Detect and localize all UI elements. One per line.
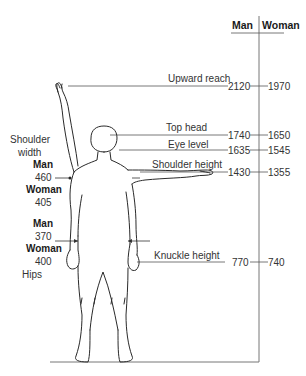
value-woman-shoulder-height: 1355 bbox=[268, 167, 290, 178]
value-man-upward-reach: 2120 bbox=[228, 81, 250, 92]
hips-man-label: Man bbox=[33, 218, 53, 229]
hips-woman-label: Woman bbox=[26, 243, 62, 254]
label-knuckle-height: Knuckle height bbox=[154, 250, 220, 261]
shoulder-width-man-label: Man bbox=[33, 159, 53, 170]
hips-woman-value: 400 bbox=[35, 256, 52, 267]
value-woman-eye-level: 1545 bbox=[268, 145, 290, 156]
label-upward-reach: Upward reach bbox=[168, 73, 230, 84]
shoulder-width-title-2: width bbox=[18, 147, 41, 158]
value-woman-upward-reach: 1970 bbox=[268, 81, 290, 92]
value-woman-top-head: 1650 bbox=[268, 130, 290, 141]
value-man-top-head: 1740 bbox=[228, 130, 250, 141]
value-woman-knuckle-height: 740 bbox=[268, 257, 285, 268]
label-eye-level: Eye level bbox=[168, 139, 209, 150]
label-top-head: Top head bbox=[166, 122, 207, 133]
column-header-man: Man bbox=[232, 20, 253, 31]
shoulder-width-title-1: Shoulder bbox=[10, 134, 50, 145]
hips-title: Hips bbox=[22, 269, 42, 280]
shoulder-width-woman-value: 405 bbox=[35, 197, 52, 208]
hips-man-value: 370 bbox=[35, 231, 52, 242]
value-man-knuckle-height: 770 bbox=[232, 257, 249, 268]
value-man-shoulder-height: 1430 bbox=[228, 167, 250, 178]
value-man-eye-level: 1635 bbox=[228, 145, 250, 156]
column-header-woman: Woman bbox=[262, 20, 300, 31]
shoulder-width-woman-label: Woman bbox=[26, 184, 62, 195]
label-shoulder-height: Shoulder height bbox=[152, 159, 222, 170]
shoulder-width-man-value: 460 bbox=[35, 172, 52, 183]
